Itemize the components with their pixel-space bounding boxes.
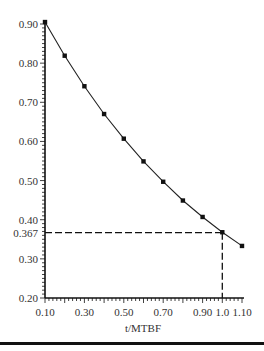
y-tick-label: 0.367	[13, 227, 38, 239]
x-tick-label: 0.10	[35, 306, 55, 318]
data-point-marker	[181, 198, 185, 202]
x-axis-title: t/MTBF	[125, 322, 161, 334]
data-point-marker	[43, 20, 47, 24]
ticks	[40, 24, 242, 303]
data-point-marker	[102, 112, 106, 116]
y-tick-label: 0.50	[19, 175, 39, 187]
y-tick-label: 0.20	[19, 292, 39, 304]
data-series	[43, 20, 244, 248]
y-tick-label: 0.70	[19, 96, 39, 108]
y-tick-label: 0.60	[19, 135, 39, 147]
y-tick-label: 0.30	[19, 253, 39, 265]
data-point-marker	[141, 159, 145, 163]
reference-lines	[45, 233, 222, 298]
data-point-marker	[161, 180, 165, 184]
x-tick-label: 1.0	[215, 306, 229, 318]
data-point-marker	[82, 84, 86, 88]
x-tick-label: 1.10	[232, 306, 252, 318]
x-tick-label: 0.30	[75, 306, 95, 318]
data-point-marker	[220, 230, 224, 234]
reliability-chart: 0.200.300.3670.400.500.600.700.800.900.1…	[0, 0, 264, 351]
data-point-marker	[200, 215, 204, 219]
data-point-marker	[122, 136, 126, 140]
y-tick-label: 0.80	[19, 57, 39, 69]
series-line	[45, 22, 242, 246]
tick-labels: 0.200.300.3670.400.500.600.700.800.900.1…	[13, 18, 252, 318]
y-tick-label: 0.90	[19, 18, 39, 30]
x-tick-label: 0.90	[193, 306, 213, 318]
x-tick-label: 0.50	[114, 306, 134, 318]
data-point-marker	[240, 244, 244, 248]
data-point-marker	[63, 54, 67, 58]
y-tick-label: 0.40	[19, 214, 39, 226]
bottom-rule	[0, 342, 264, 345]
x-tick-label: 0.70	[154, 306, 174, 318]
